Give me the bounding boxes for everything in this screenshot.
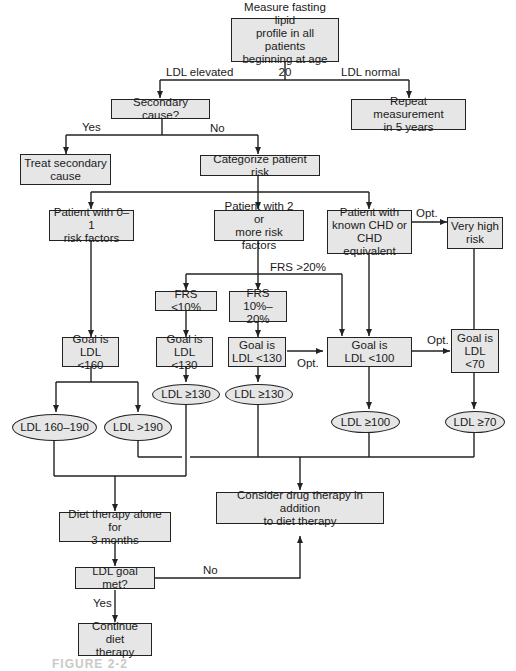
node-categorize-risk: Categorize patient risk [200, 155, 320, 176]
node-very-high-risk: Very high risk [447, 217, 503, 249]
edge-label-no-goal-met: No [203, 564, 218, 577]
node-ldl-ge-130-b: LDL ≥130 [225, 384, 293, 405]
node-goal-ldl-130-a: Goal is LDL <130 [156, 337, 213, 367]
edge-label-opt-goal-70: Opt. [427, 334, 449, 347]
edge-label-frs-gt-20: FRS >20% [270, 261, 326, 274]
edge-label-ldl-normal: LDL normal [341, 66, 400, 79]
node-secondary-cause: Secondary cause? [111, 99, 210, 119]
node-ldl-goal-met: LDL goal met? [75, 567, 155, 589]
node-known-chd: Patient with known CHD or CHD equivalent [327, 210, 412, 254]
node-diet-therapy-3-months: Diet therapy alone for 3 months [59, 512, 171, 542]
edge-label-ldl-elevated: LDL elevated [166, 66, 233, 79]
node-risk-0-1: Patient with 0–1 risk factors [49, 210, 134, 241]
node-continue-diet-therapy: Continue diet therapy [78, 623, 152, 656]
edge-label-opt-very-high: Opt. [416, 207, 438, 220]
node-goal-ldl-70: Goal is LDL <70 [451, 329, 499, 373]
edge-label-yes-secondary: Yes [82, 121, 101, 134]
node-goal-ldl-100: Goal is LDL <100 [327, 337, 412, 367]
node-goal-ldl-130-b: Goal is LDL <130 [228, 337, 286, 367]
node-frs-10-20: FRS 10%–20% [229, 291, 287, 322]
edge-label-no-secondary: No [210, 122, 225, 135]
node-goal-ldl-160: Goal is LDL <160 [62, 337, 119, 367]
node-ldl-ge-100: LDL ≥100 [331, 411, 400, 433]
node-ldl-ge-70: LDL ≥70 [445, 411, 505, 433]
node-ldl-160-190: LDL 160–190 [12, 414, 97, 441]
node-frs-lt-10: FRS <10% [155, 291, 217, 311]
node-measure-lipid-profile: Measure fasting lipid profile in all pat… [231, 18, 339, 62]
node-ldl-ge-130-a: LDL ≥130 [152, 384, 220, 405]
node-ldl-gt-190: LDL >190 [104, 414, 172, 441]
node-consider-drug-therapy: Consider drug therapy in addition to die… [216, 492, 384, 524]
edge-label-yes-goal-met: Yes [93, 597, 112, 610]
node-repeat-measurement: Repeat measurement in 5 years [351, 99, 466, 130]
edge-label-opt-goal-100: Opt. [297, 357, 319, 370]
node-treat-secondary-cause: Treat secondary cause [20, 154, 111, 185]
figure-caption: FIGURE 2-2 [52, 657, 128, 671]
node-risk-2-plus: Patient with 2 or more risk factors [214, 210, 304, 241]
